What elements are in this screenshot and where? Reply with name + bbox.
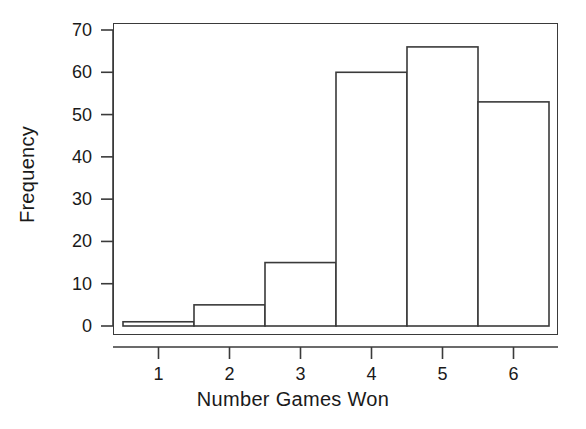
x-axis-title: Number Games Won bbox=[0, 388, 586, 411]
x-tick-label: 4 bbox=[352, 365, 392, 383]
y-axis-title: Frequency bbox=[16, 126, 38, 223]
y-tick-label: 40 bbox=[52, 148, 92, 166]
y-tick-label: 10 bbox=[52, 275, 92, 293]
x-axis bbox=[113, 347, 558, 359]
x-tick-label: 2 bbox=[210, 365, 250, 383]
y-tick-label: 30 bbox=[52, 190, 92, 208]
histogram-bar bbox=[265, 263, 336, 326]
y-tick-label: 70 bbox=[52, 21, 92, 39]
y-tick-label: 60 bbox=[52, 63, 92, 81]
histogram-bar bbox=[194, 305, 265, 326]
histogram-bar bbox=[407, 47, 478, 326]
histogram-bar bbox=[478, 102, 549, 326]
y-tick-label: 0 bbox=[52, 317, 92, 335]
histogram-bar bbox=[123, 322, 194, 326]
y-tick-label: 20 bbox=[52, 232, 92, 250]
x-tick-label: 3 bbox=[281, 365, 321, 383]
histogram-figure: 010203040506070 123456 Number Games Won … bbox=[0, 0, 586, 429]
y-axis-title-wrapper: Frequency bbox=[16, 85, 39, 265]
y-axis bbox=[101, 30, 113, 326]
bars-group bbox=[123, 47, 549, 326]
histogram-bar bbox=[336, 72, 407, 326]
y-tick-label: 50 bbox=[52, 106, 92, 124]
x-tick-label: 1 bbox=[139, 365, 179, 383]
x-tick-label: 6 bbox=[494, 365, 534, 383]
x-tick-label: 5 bbox=[423, 365, 463, 383]
